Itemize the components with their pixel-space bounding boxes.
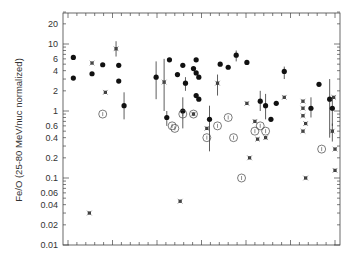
filled-circle-marker [330,106,335,111]
y-tick-label: 0.06 [40,188,58,198]
asterisk-marker [178,199,183,204]
filled-circle-marker [234,53,239,58]
asterisk-marker [90,61,95,66]
asterisk-marker [303,121,308,126]
filled-circle-marker [244,60,249,65]
y-tick-label: 0.6 [45,121,58,131]
y-tick-label: 0.04 [40,200,58,210]
filled-circle-marker [116,78,121,83]
asterisk-marker [333,168,338,173]
data-points [71,41,338,215]
y-axis-ticks: 201064210.60.40.20.10.060.040.020.01 [40,12,340,250]
y-tick-label: 0.4 [45,133,58,143]
filled-circle-marker [268,117,273,122]
filled-circle-marker [226,65,231,70]
filled-circle-marker [191,66,196,71]
asterisk-marker [301,113,306,118]
filled-circle-marker [207,117,212,122]
y-tick-label: 0.02 [40,220,58,230]
asterisk-marker [282,95,287,100]
filled-circle-marker [183,81,188,86]
asterisk-marker [244,101,249,106]
filled-circle-marker [89,71,94,76]
filled-circle-marker [274,101,279,106]
filled-circle-marker [71,55,76,60]
filled-circle-marker [167,57,172,62]
y-tick-label: 10 [48,39,58,49]
plot-frame [63,13,340,245]
filled-circle-marker [196,75,201,80]
filled-circle-marker [196,97,201,102]
y-tick-label: 0.1 [45,173,58,183]
asterisk-marker [301,129,306,134]
asterisk-marker [301,106,306,111]
y-tick-label: 20 [48,19,58,29]
filled-circle-marker [308,106,313,111]
asterisk-marker [103,90,108,95]
filled-circle-marker [71,75,76,80]
fe-o-scatter-chart: Fe/O (25-80 MeV/nuc normalized) 20106421… [0,0,352,263]
filled-circle-marker [180,63,185,68]
asterisk-marker [303,176,308,181]
asterisk-marker [247,155,252,160]
filled-circle-marker [175,72,180,77]
asterisk-marker [204,126,209,131]
filled-circle-marker [282,69,287,74]
y-axis-label: Fe/O (25-80 MeV/nuc normalized) [13,58,24,202]
filled-circle-marker [164,115,169,120]
asterisk-marker [255,137,260,142]
y-tick-label: 0.01 [40,240,58,250]
asterisk-marker [263,135,268,140]
asterisk-marker [87,211,92,216]
asterisk-marker [333,147,338,152]
y-tick-label: 2 [53,86,58,96]
y-tick-label: 4 [53,66,58,76]
y-tick-label: 0.2 [45,153,58,163]
asterisk-marker [301,99,306,104]
filled-circle-marker [154,75,159,80]
x-axis-ticks [68,13,335,245]
filled-circle-marker [100,62,105,67]
filled-circle-marker [258,99,263,104]
asterisk-marker [253,119,258,124]
filled-circle-marker [121,103,126,108]
filled-circle-marker [194,57,199,62]
filled-circle-marker [316,82,321,87]
y-tick-label: 1 [53,106,58,116]
filled-circle-marker [116,63,121,68]
y-tick-label: 6 [53,54,58,64]
filled-circle-marker [218,62,223,67]
filled-circle-marker [263,103,268,108]
